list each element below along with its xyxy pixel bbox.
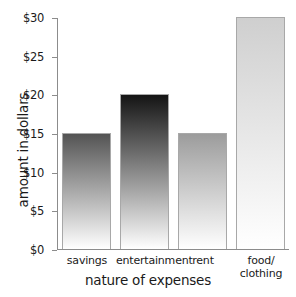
y-tick-label: $20 (23, 88, 44, 102)
y-tick-label: $0 (30, 243, 44, 257)
y-axis-title: amount in dollars (15, 50, 31, 250)
plot-area: $30$25$20$15$10$5$0 (57, 18, 289, 250)
y-tick-label: $30 (23, 11, 44, 25)
y-tick: $5 (52, 211, 57, 212)
bar (120, 94, 169, 249)
y-tick-label: $10 (23, 166, 44, 180)
bar (178, 133, 227, 249)
x-axis-line (57, 249, 289, 250)
y-tick: $30 (52, 18, 57, 19)
x-tick-label: savings (58, 255, 116, 268)
bar (236, 17, 285, 249)
x-axis-title: nature of expenses (0, 272, 296, 288)
x-tick-label: entertainment (116, 255, 174, 268)
x-tick-label-line: food/ (232, 255, 290, 268)
y-tick: $10 (52, 173, 57, 174)
x-tick-label-line: savings (58, 255, 116, 268)
x-tick-label-line: entertainment (116, 255, 174, 268)
y-tick-label: $25 (23, 50, 44, 64)
y-tick: $20 (52, 95, 57, 96)
bar (62, 133, 111, 249)
y-tick: $25 (52, 57, 57, 58)
bar-chart: amount in dollars $30$25$20$15$10$5$0 sa… (0, 0, 296, 297)
y-tick-label: $5 (30, 204, 44, 218)
x-tick-label: rent (174, 255, 232, 268)
bar-series (58, 18, 289, 249)
x-tick-label-line: rent (174, 255, 232, 268)
y-tick: $15 (52, 134, 57, 135)
y-tick-label: $15 (23, 127, 44, 141)
y-tick: $0 (52, 250, 57, 251)
